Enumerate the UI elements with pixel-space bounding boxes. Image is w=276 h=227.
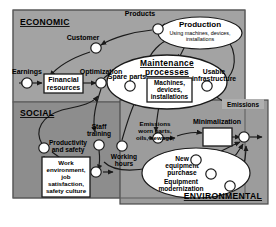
box-financial-resources: Financial resources	[44, 74, 83, 93]
work-environment-line-2: environment,	[47, 166, 86, 173]
node-env-extra	[225, 181, 235, 191]
node-customer	[91, 43, 101, 53]
new-equipment-line-3: purchase	[167, 169, 197, 177]
new-equipment-line-1: New	[175, 155, 189, 162]
label-customer: Customer	[67, 34, 100, 41]
diagram-canvas: Production Using machines, devices, inst…	[0, 0, 276, 227]
maintenance-title-2: processes	[145, 67, 189, 77]
box-work-environment: Work environment, job satisfaction, safe…	[42, 157, 90, 197]
work-environment-line-1: Work	[58, 159, 74, 166]
production-title: Production	[179, 20, 221, 29]
section-label-economic: ECONOMIC	[20, 17, 70, 27]
work-environment-line-3: job	[60, 173, 70, 180]
node-usable-infrastructure	[202, 81, 212, 91]
work-environment-line-4: satisfaction,	[48, 180, 84, 187]
label-emissions-worn-2: worn parts,	[137, 127, 172, 134]
ellipse-production: Production Using machines, devices, inst…	[158, 17, 242, 49]
financial-resources-line-1: Financial	[48, 76, 78, 83]
node-new-equipment	[191, 155, 201, 165]
section-label-environmental: ENVIRONMENTAL	[184, 191, 262, 201]
label-usable-infrastructure-1: Usable	[203, 68, 226, 75]
label-staff-training-2: training	[87, 130, 111, 138]
node-productivity-and-safety	[39, 143, 49, 153]
node-products	[153, 24, 163, 34]
label-earnings: Earnings	[12, 68, 42, 76]
causal-loop-diagram: Production Using machines, devices, inst…	[0, 0, 276, 227]
node-staff-training	[94, 140, 104, 150]
label-usable-infrastructure-2: infrastructure	[192, 75, 236, 82]
emissions-tag: Emissions	[222, 99, 264, 109]
label-productivity-2: and safety	[52, 146, 85, 154]
node-working-hours	[117, 141, 127, 151]
node-equipment-modernization	[206, 169, 216, 179]
label-products: Products	[125, 10, 155, 17]
financial-resources-line-2: resources	[47, 84, 81, 91]
label-working-hours-2: hours	[115, 160, 134, 167]
node-work-environment	[91, 167, 101, 177]
label-minimalization: Minimalization	[193, 118, 241, 125]
label-staff-training-1: Staff	[92, 123, 107, 130]
section-label-social: SOCIAL	[20, 108, 54, 118]
label-spare-parts: Spare parts	[108, 73, 147, 81]
label-emissions-worn-1: Emissions	[140, 120, 172, 127]
work-environment-line-5: safety culture	[46, 187, 87, 194]
box-minimalization	[203, 128, 232, 146]
node-optimization	[96, 78, 106, 88]
node-earnings	[22, 78, 32, 88]
node-minimalization	[239, 132, 249, 142]
machines-line-3: installations	[151, 93, 189, 100]
label-emissions-tag: Emissions	[227, 101, 259, 108]
label-emissions-worn-3: oils, sewage,	[136, 134, 174, 141]
node-spare-parts	[125, 81, 135, 91]
production-subtitle-2: installations	[186, 36, 214, 42]
box-machines-devices-installations: Machines, devices, installations	[147, 78, 192, 102]
